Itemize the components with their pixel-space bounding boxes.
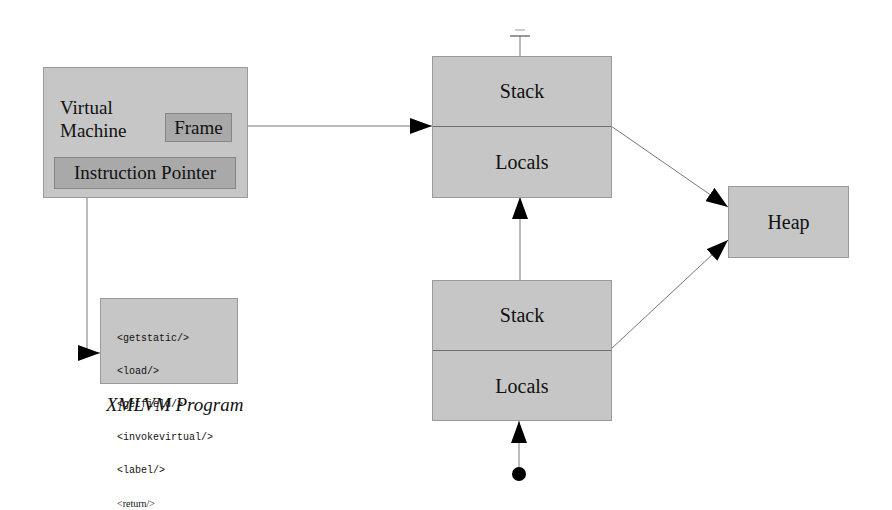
bottom-frame-heap-arrow bbox=[611, 240, 728, 349]
program-caption: XMLVM Program bbox=[106, 394, 243, 416]
virtual-machine-box: Virtual Machine Frame Instruction Pointe… bbox=[43, 67, 248, 198]
bottom-frame-stack: Stack bbox=[433, 281, 611, 350]
instruction-pointer-box: Instruction Pointer bbox=[54, 157, 236, 189]
program-line: <invokevirtual/> bbox=[117, 432, 213, 443]
program-line: <label/> bbox=[117, 465, 213, 476]
top-frame-locals: Locals bbox=[433, 127, 611, 198]
start-dot bbox=[512, 467, 526, 481]
bottom-frame-locals: Locals bbox=[433, 351, 611, 421]
program-line: <getstatic/> bbox=[117, 333, 213, 344]
frame-box: Frame bbox=[165, 113, 232, 142]
vm-title-line2: Machine bbox=[60, 119, 126, 142]
top-frame-stack: Stack bbox=[433, 57, 611, 126]
vm-title: Virtual Machine bbox=[60, 96, 126, 142]
instruction-pointer-arrow bbox=[87, 188, 100, 353]
program-line: <return/> bbox=[117, 498, 213, 509]
bottom-frame-box: Stack Locals bbox=[432, 280, 612, 421]
heap-box: Heap bbox=[728, 186, 849, 258]
vm-title-line1: Virtual bbox=[60, 96, 126, 119]
program-box: <getstatic/> <load/> <getfield/> <invoke… bbox=[100, 298, 238, 384]
top-frame-heap-arrow bbox=[611, 126, 728, 207]
top-frame-box: Stack Locals bbox=[432, 56, 612, 198]
program-line: <load/> bbox=[117, 366, 213, 377]
